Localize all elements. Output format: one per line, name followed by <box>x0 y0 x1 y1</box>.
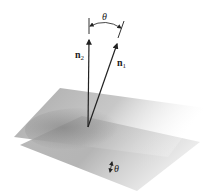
plane-shading <box>25 108 135 152</box>
n2-label: n2 <box>75 49 85 62</box>
bottom-theta-label: θ <box>114 163 119 174</box>
n1-label: n1 <box>117 57 127 70</box>
angle-between-planes-diagram: θ n2 n1 θ <box>0 0 216 195</box>
angle-arc-top <box>90 22 121 28</box>
diagram-canvas: θ n2 n1 θ <box>0 0 216 195</box>
top-theta-label: θ <box>102 11 107 22</box>
angle-tick-n1 <box>118 21 124 38</box>
